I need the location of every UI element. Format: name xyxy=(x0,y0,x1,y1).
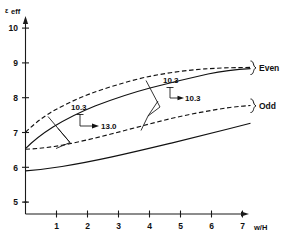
odd-brace xyxy=(251,99,257,113)
y-axis-arrow xyxy=(23,16,28,24)
annotation-left-arrowhead xyxy=(92,124,99,129)
even-label: Even xyxy=(259,63,279,73)
annotation-right-top-label: 10.3 xyxy=(163,76,179,85)
annotation-left-bracket xyxy=(80,114,94,126)
legend-odd: Odd xyxy=(251,99,277,113)
annotation-left-top-label: 10.3 xyxy=(71,103,87,112)
curve-even-13-0 xyxy=(26,67,251,132)
annotation-right: 10.3 10.3 xyxy=(141,76,201,131)
y-tick-label-9: 9 xyxy=(13,58,18,68)
y-tick-label-10: 10 xyxy=(9,23,19,33)
y-tick-label-8: 8 xyxy=(13,93,18,103)
annotation-left: 10.3 13.0 xyxy=(48,103,117,149)
even-brace xyxy=(251,61,257,75)
x-tick-label-1: 1 xyxy=(54,221,59,231)
y-tick-label-6: 6 xyxy=(13,163,18,173)
y-tick-label-7: 7 xyxy=(13,128,18,138)
legend-even: Even xyxy=(251,61,280,75)
annotation-right-arrowhead xyxy=(178,96,185,101)
x-tick-label-2: 2 xyxy=(85,221,90,231)
x-tick-label-7: 7 xyxy=(240,221,245,231)
annotation-right-bottom-label: 10.3 xyxy=(185,94,201,103)
annotation-left-bottom-label: 13.0 xyxy=(101,122,117,131)
curve-odd-13-0 xyxy=(26,106,251,150)
y-tick-label-5: 5 xyxy=(13,197,18,207)
y-axis-title-sub: eff xyxy=(11,7,21,16)
x-axis-title: w/H xyxy=(253,223,267,232)
odd-label: Odd xyxy=(259,101,276,111)
axes-group xyxy=(23,16,249,217)
x-tick-label-5: 5 xyxy=(178,221,183,231)
y-axis-title: ε eff xyxy=(5,7,21,16)
annotation-left-leader-upper xyxy=(48,117,70,143)
y-axis-title-symbol: ε xyxy=(5,7,9,14)
x-tick-label-6: 6 xyxy=(209,221,214,231)
chart-figure: 10 9 8 7 6 5 1 2 3 4 5 6 7 w/H ε xyxy=(0,0,285,237)
curve-even-10-3 xyxy=(26,69,251,149)
chart-svg: 10 9 8 7 6 5 1 2 3 4 5 6 7 w/H ε xyxy=(0,0,285,237)
x-tick-label-3: 3 xyxy=(116,221,121,231)
x-tick-label-4: 4 xyxy=(147,221,152,231)
annotation-right-leader-lower xyxy=(141,116,148,131)
